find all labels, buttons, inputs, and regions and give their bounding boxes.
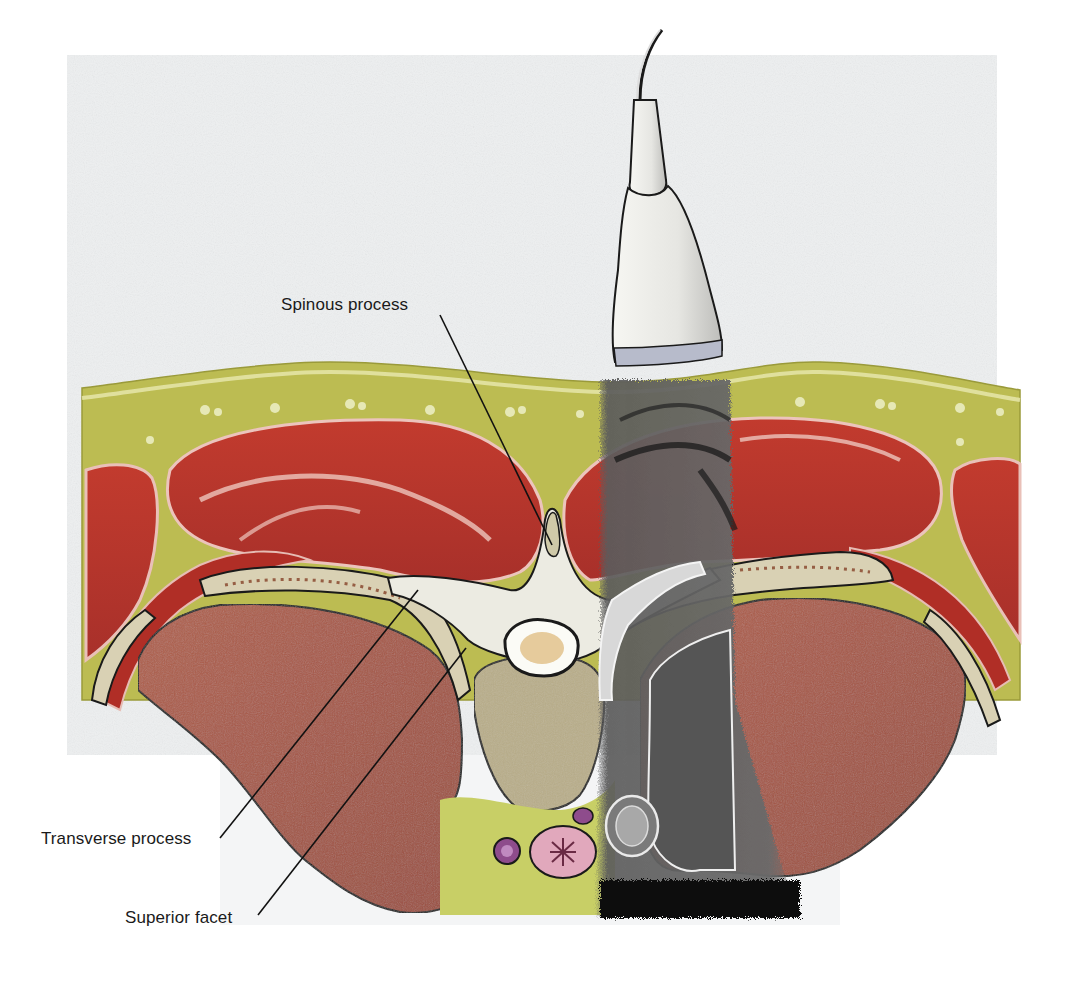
label-spinous-process: Spinous process bbox=[281, 295, 408, 315]
label-transverse-process: Transverse process bbox=[41, 829, 191, 849]
intercostal-vessel bbox=[573, 808, 593, 824]
label-superior-facet: Superior facet bbox=[125, 908, 232, 928]
spinal-cord bbox=[520, 632, 564, 664]
